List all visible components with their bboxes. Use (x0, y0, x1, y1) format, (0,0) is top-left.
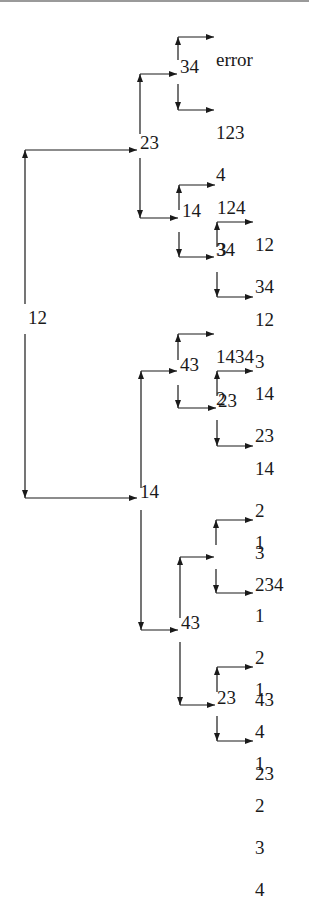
node-root: 12 (28, 311, 47, 325)
leaf-line: 2 (255, 799, 265, 813)
leaf: 124 3 (217, 173, 246, 271)
leaf-line: 4 (255, 883, 265, 897)
leaf: 1434 2 (216, 322, 254, 420)
node-down: 14 (140, 485, 159, 499)
leaf-line: 12 (255, 313, 274, 327)
node-down-up: 43 (180, 358, 199, 372)
leaf-line: 3 (217, 243, 246, 257)
leaf-line: 3 (255, 841, 265, 855)
leaf-line: 2 (216, 392, 254, 406)
leaf-line: 1 (255, 757, 265, 771)
leaf-line: 124 (217, 201, 246, 215)
leaf-line: 14 (255, 462, 274, 476)
leaf-line: 1 (255, 683, 274, 697)
node-up: 23 (140, 136, 159, 150)
leaf-line: 1 (255, 536, 284, 550)
node-down-down-down: 23 (217, 691, 236, 705)
node-up-down: 14 (182, 204, 201, 218)
leaf-line: 1434 (216, 350, 254, 364)
leaf: 1 2 3 4 (255, 729, 265, 900)
leaf-line: error (216, 53, 253, 67)
node-down-down: 43 (181, 616, 200, 630)
leaf-line: 123 (216, 126, 245, 140)
leaf-line: 12 (255, 238, 274, 252)
leaf-line: 1 (255, 609, 274, 623)
leaf-error: error (216, 25, 253, 81)
node-up-up: 34 (180, 60, 199, 74)
leaf-line: 14 (255, 387, 274, 401)
